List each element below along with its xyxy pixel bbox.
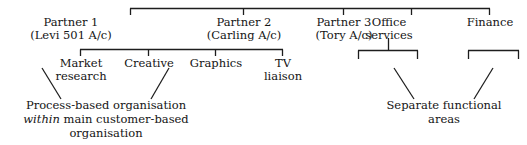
diagonal-right-process <box>151 68 169 99</box>
caption-separate-functional: Separate functional areas <box>379 98 509 126</box>
node-tv-liaison: TV liaison <box>250 57 316 83</box>
diagonal-left-functional <box>394 68 414 99</box>
caption-process-based: Process-based organisation within main c… <box>16 98 196 140</box>
diagonal-right-functional <box>474 68 493 99</box>
caption-separate-functional-line2: areas <box>379 112 509 126</box>
node-tv-liaison-line1: TV <box>275 56 291 70</box>
caption-process-based-line2: within main customer-based <box>16 112 196 126</box>
node-graphics-line1: Graphics <box>190 56 242 70</box>
node-partner-1-line1: Partner 1 <box>44 15 99 29</box>
node-office-services-line2: services <box>349 29 429 42</box>
node-finance: Finance <box>450 16 527 29</box>
node-office-services-line1: Office <box>372 15 407 29</box>
node-market-research: Market research <box>42 57 120 83</box>
node-market-research-line1: Market <box>60 56 103 70</box>
node-market-research-line2: research <box>42 70 120 83</box>
node-office-services: Office services <box>349 16 429 42</box>
node-creative: Creative <box>112 57 186 70</box>
node-tv-liaison-line2: liaison <box>250 70 316 83</box>
caption-process-based-italic: within <box>23 112 60 126</box>
caption-process-based-line1: Process-based organisation <box>16 98 196 112</box>
caption-separate-functional-line1: Separate functional <box>379 98 509 112</box>
node-creative-line1: Creative <box>124 56 174 70</box>
node-finance-line1: Finance <box>467 15 514 29</box>
node-partner-1-line2: (Levi 501 A/c) <box>12 29 130 42</box>
node-partner-1: Partner 1 (Levi 501 A/c) <box>12 16 130 42</box>
node-partner-2-line1: Partner 2 <box>217 15 272 29</box>
caption-process-based-line2-rest: main customer-based <box>60 112 189 126</box>
node-graphics: Graphics <box>180 57 252 70</box>
caption-process-based-line3: organisation <box>16 126 196 140</box>
organisation-chart: Partner 1 (Levi 501 A/c) Partner 2 (Carl… <box>0 0 527 145</box>
